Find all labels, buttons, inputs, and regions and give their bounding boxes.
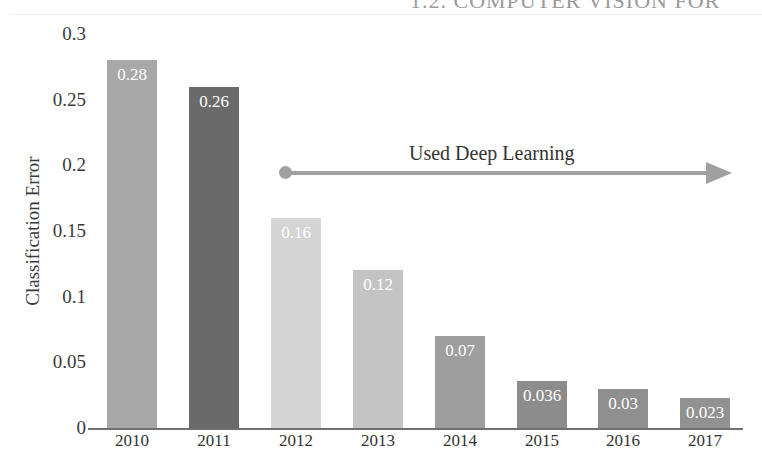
x-tick-label: 2011 xyxy=(179,431,249,451)
bar-value-label: 0.28 xyxy=(107,65,157,85)
bar-2010: 0.28 xyxy=(107,60,157,428)
y-axis-label: Classification Error xyxy=(22,156,44,305)
bar-value-label: 0.03 xyxy=(598,394,648,414)
y-tick-label: 0.25 xyxy=(53,89,86,111)
bar-value-label: 0.26 xyxy=(189,92,239,112)
y-tick-label: 0.05 xyxy=(53,351,86,373)
x-tick-label: 2014 xyxy=(425,431,495,451)
deep-learning-annotation: Used Deep Learning xyxy=(409,142,575,165)
y-tick-label: 0.2 xyxy=(62,154,86,176)
page-header: 1.2. COMPUTER VISION FOR xyxy=(410,0,720,14)
bar-2015: 0.036 xyxy=(517,381,567,428)
bar-value-label: 0.036 xyxy=(517,386,567,406)
bar-2011: 0.26 xyxy=(189,87,239,428)
bar-2017: 0.023 xyxy=(680,398,730,428)
y-tick-label: 0 xyxy=(77,417,87,439)
x-axis-line xyxy=(88,428,743,430)
header-rule xyxy=(10,14,762,15)
y-tick-label: 0.1 xyxy=(62,286,86,308)
x-tick-label: 2017 xyxy=(670,431,740,451)
x-tick-label: 2013 xyxy=(343,431,413,451)
x-tick-label: 2016 xyxy=(588,431,658,451)
bar-2014: 0.07 xyxy=(435,336,485,428)
bar-2012: 0.16 xyxy=(271,218,321,428)
x-tick-label: 2012 xyxy=(261,431,331,451)
x-tick-label: 2010 xyxy=(97,431,167,451)
bar-2016: 0.03 xyxy=(598,389,648,428)
bar-value-label: 0.16 xyxy=(271,223,321,243)
y-tick-label: 0.15 xyxy=(53,220,86,242)
bar-value-label: 0.12 xyxy=(353,275,403,295)
bar-value-label: 0.023 xyxy=(680,403,730,423)
bar-value-label: 0.07 xyxy=(435,341,485,361)
deep-learning-arrow-line xyxy=(285,171,707,175)
y-tick-label: 0.3 xyxy=(62,23,86,45)
bar-2013: 0.12 xyxy=(353,270,403,428)
arrow-head-icon xyxy=(706,162,732,184)
x-tick-label: 2015 xyxy=(507,431,577,451)
arrow-start-dot-icon xyxy=(279,166,292,179)
